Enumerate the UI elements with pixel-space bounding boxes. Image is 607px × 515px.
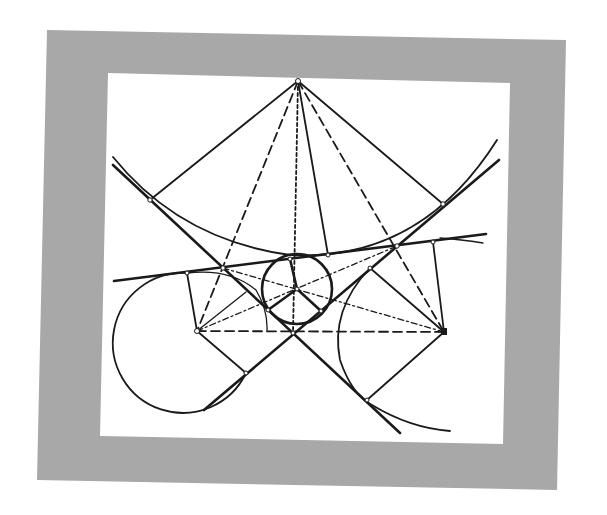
geometric-diagram [0, 0, 607, 515]
white-canvas [100, 73, 510, 444]
